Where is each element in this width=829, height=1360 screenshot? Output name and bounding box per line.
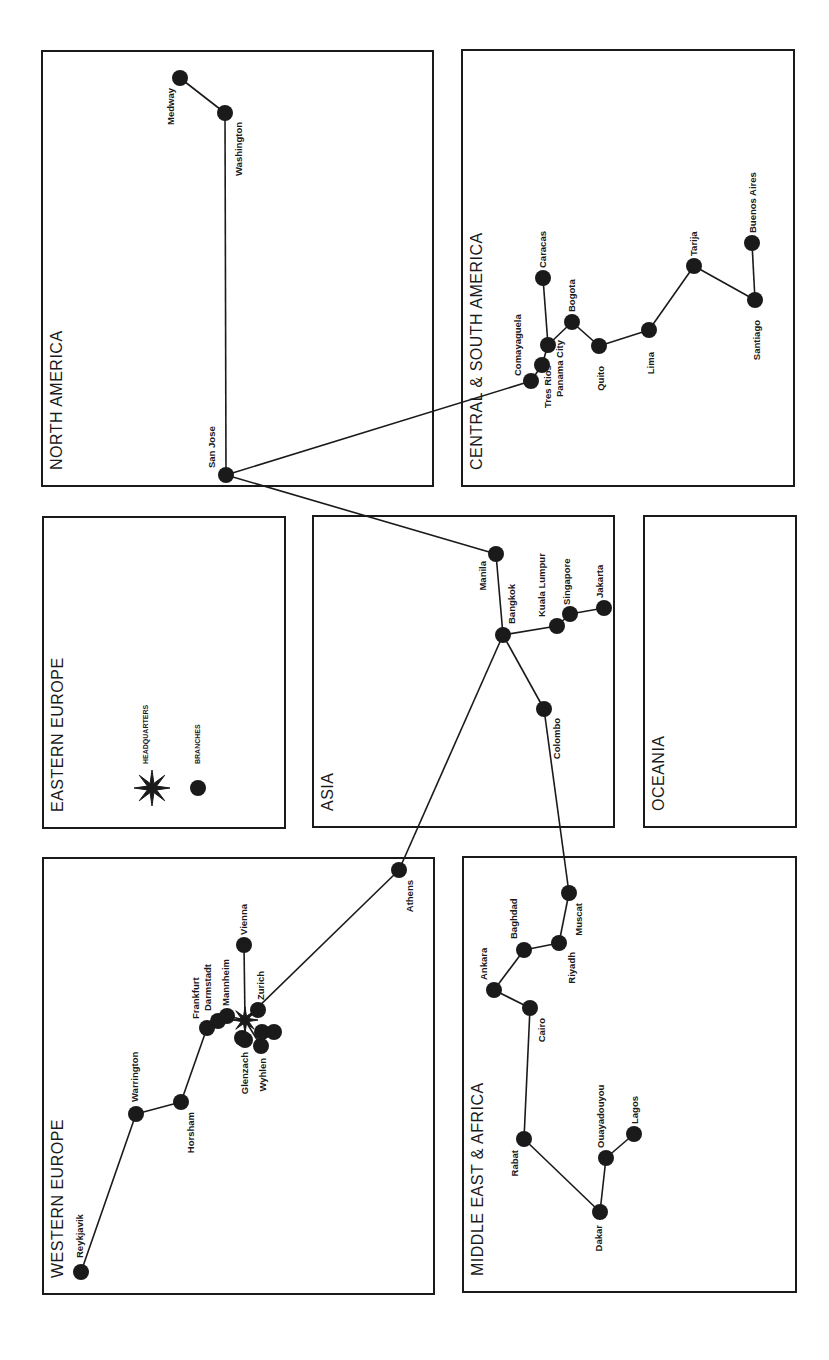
city-label: Cairo — [536, 1018, 547, 1042]
city-label: Rabat — [509, 1149, 520, 1176]
city-label: Tarija — [688, 231, 699, 256]
city-label: Glenzach — [239, 1052, 250, 1094]
branch-dot-icon — [217, 105, 233, 121]
city-label: Washington — [233, 122, 244, 176]
city-label: San Jose — [206, 426, 217, 468]
branch-dot-icon — [516, 1131, 532, 1147]
city-label: Comayaguela — [512, 314, 523, 376]
region-eastern-europe: EASTERN EUROPE — [43, 517, 285, 828]
city-label: Baghdad — [508, 898, 519, 939]
city-label: Athens — [404, 880, 415, 912]
connection-line — [524, 1139, 600, 1212]
headquarters-star-icon — [232, 1007, 258, 1033]
links-layer — [81, 78, 755, 1272]
branch-dot-icon — [747, 292, 763, 308]
city-label: Quito — [595, 366, 606, 391]
branch-dot-icon — [250, 1002, 266, 1018]
branch-dot-icon — [173, 1094, 189, 1110]
branch-dot-icon — [522, 1000, 538, 1016]
branch-dots-layer — [73, 70, 763, 1280]
dot-icon — [190, 780, 206, 796]
region-central-south-america: CENTRAL & SOUTH AMERICA — [462, 50, 794, 486]
city-label: Muscat — [573, 902, 584, 936]
branch-dot-icon — [591, 338, 607, 354]
region-box — [43, 517, 285, 828]
city-label: Colombo — [551, 718, 562, 759]
city-label: Dakar — [593, 1225, 604, 1252]
office-network-diagram: NORTH AMERICACENTRAL & SOUTH AMERICAEAST… — [0, 0, 829, 1360]
city-label: Warrington — [129, 1051, 140, 1102]
region-box — [42, 51, 433, 486]
headquarters-layer — [232, 1007, 258, 1033]
branch-dot-icon — [234, 1030, 250, 1046]
star-icon — [134, 770, 170, 806]
region-title: CENTRAL & SOUTH AMERICA — [468, 232, 485, 470]
connection-line — [649, 266, 694, 330]
branch-dot-icon — [495, 627, 511, 643]
branch-dot-icon — [592, 1204, 608, 1220]
branch-dot-icon — [564, 314, 580, 330]
region-box — [462, 50, 794, 486]
branch-dot-icon — [744, 235, 760, 251]
branch-dot-icon — [536, 701, 552, 717]
region-title: ASIA — [319, 773, 336, 811]
branch-dot-icon — [73, 1264, 89, 1280]
city-label: Ouayadouyou — [595, 1084, 606, 1148]
city-label: Horsham — [185, 1112, 196, 1153]
legend-headquarters: HEADQUARTERS — [134, 705, 170, 806]
city-label: Riyadh — [566, 952, 577, 984]
city-label: Darmstadt — [202, 963, 213, 1011]
city-label: Vienna — [238, 903, 249, 935]
connection-line — [81, 1114, 136, 1272]
legend: HEADQUARTERS BRANCHES — [134, 705, 206, 806]
region-title: MIDDLE EAST & AFRICA — [469, 1082, 486, 1276]
connection-line — [496, 554, 503, 635]
regions-layer: NORTH AMERICACENTRAL & SOUTH AMERICAEAST… — [42, 50, 796, 1294]
star-icon — [134, 770, 170, 806]
city-label: Frankfurt — [190, 976, 201, 1019]
city-label: Bangkok — [506, 583, 517, 624]
city-label: Manila — [477, 560, 488, 590]
branch-dot-icon — [219, 1008, 235, 1024]
region-oceania: OCEANIA — [644, 516, 796, 827]
branch-dot-icon — [641, 322, 657, 338]
region-title: WESTERN EUROPE — [49, 1119, 66, 1278]
branch-dot-icon — [128, 1106, 144, 1122]
city-label: Medway — [165, 87, 176, 125]
legend-branches-label: BRANCHES — [194, 724, 201, 764]
city-label: Lagos — [629, 1096, 640, 1124]
city-label: Zurich — [255, 971, 266, 1000]
branch-dot-icon — [488, 546, 504, 562]
connection-line — [752, 243, 755, 300]
branch-dot-icon — [391, 862, 407, 878]
branch-dot-icon — [218, 467, 234, 483]
connection-line — [524, 1008, 530, 1139]
branch-dot-icon — [236, 937, 252, 953]
legend-branches: BRANCHES — [190, 724, 206, 796]
connection-line — [503, 626, 557, 635]
city-labels-layer: MedwayWashingtonSan JoseComayaguelaTres … — [74, 87, 762, 1258]
city-label: Reykjavik — [74, 1213, 85, 1258]
connection-line — [600, 1158, 606, 1212]
connection-line — [226, 381, 531, 475]
city-label: Wyhlen — [257, 1058, 268, 1092]
city-label: Jakarta — [594, 564, 605, 598]
region-title: OCEANIA — [650, 735, 667, 811]
city-label: Caracas — [537, 231, 548, 268]
city-label: Buenos Aires — [747, 172, 758, 233]
connection-line — [180, 78, 225, 113]
branch-dot-icon — [626, 1126, 642, 1142]
city-label: Singapore — [561, 559, 572, 605]
connection-line — [543, 278, 548, 345]
branch-dot-icon — [486, 982, 502, 998]
region-title: NORTH AMERICA — [48, 330, 65, 470]
region-title: EASTERN EUROPE — [49, 657, 66, 812]
connection-line — [245, 870, 399, 1020]
city-label: Mannheim — [220, 959, 231, 1006]
connection-line — [399, 635, 503, 870]
branch-dot-icon — [253, 1038, 269, 1054]
connection-line — [181, 1028, 207, 1102]
branch-dot-icon — [535, 270, 551, 286]
city-label: Lima — [645, 351, 656, 374]
branch-dot-icon — [172, 70, 188, 86]
